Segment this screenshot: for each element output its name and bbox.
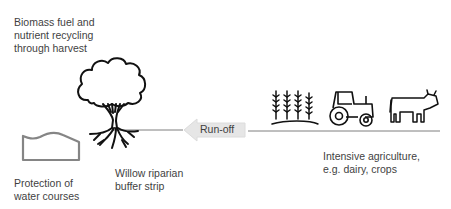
run-off-label: Run-off — [200, 123, 234, 135]
protection-label: Protection of water courses — [14, 177, 79, 203]
protection-line-1: Protection of — [14, 177, 79, 190]
tree-icon — [78, 58, 145, 148]
tractor-icon — [330, 92, 373, 126]
cow-icon — [390, 90, 438, 122]
intensive-line-2: e.g. dairy, crops — [323, 163, 420, 176]
biomass-line-2: nutrient recycling — [14, 29, 95, 42]
willow-line-1: Willow riparian — [115, 167, 183, 180]
wheat-icon — [272, 91, 318, 124]
biomass-line-1: Biomass fuel and — [14, 16, 95, 29]
intensive-line-1: Intensive agriculture, — [323, 150, 420, 163]
biomass-line-3: through harvest — [14, 42, 95, 55]
protection-line-2: water courses — [14, 190, 79, 203]
water-course-icon — [23, 133, 79, 160]
willow-label: Willow riparian buffer strip — [115, 167, 183, 193]
willow-line-2: buffer strip — [115, 180, 183, 193]
biomass-label: Biomass fuel and nutrient recycling thro… — [14, 16, 95, 55]
intensive-agriculture-label: Intensive agriculture, e.g. dairy, crops — [323, 150, 420, 176]
